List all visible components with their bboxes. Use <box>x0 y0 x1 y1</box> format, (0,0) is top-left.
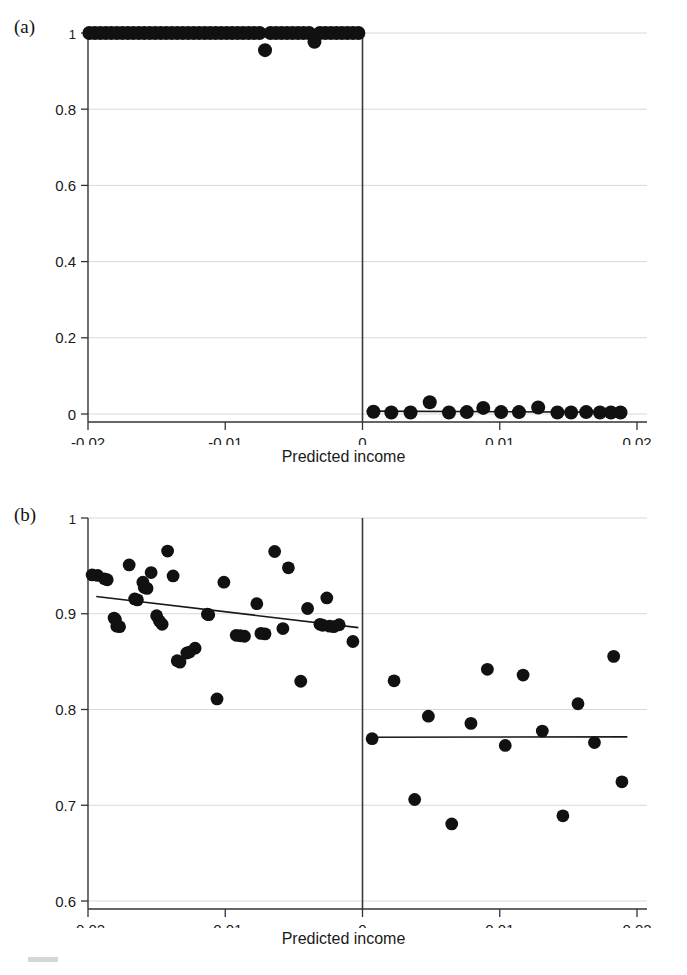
panel-a-xaxis-title: Predicted income <box>0 448 687 466</box>
y-tick-label: 0.9 <box>55 605 76 622</box>
data-point <box>294 675 307 688</box>
data-point <box>536 725 549 738</box>
tick-labels: 00.20.40.60.81-0.02-0.0100.010.02 <box>55 27 651 446</box>
data-point <box>161 545 174 558</box>
data-point <box>276 622 289 635</box>
data-point <box>564 405 578 419</box>
data-point <box>238 630 251 643</box>
x-tick-label: 0.01 <box>485 921 514 928</box>
data-point <box>614 405 628 419</box>
data-point <box>388 674 401 687</box>
x-tick-label: -0.02 <box>71 434 105 445</box>
data-point <box>442 405 456 419</box>
panel-b-plot: 0.60.70.80.91-0.02-0.0100.010.02 <box>0 490 687 928</box>
data-point <box>141 582 154 595</box>
data-point <box>145 566 158 579</box>
data-point <box>384 405 398 419</box>
data-point <box>346 635 359 648</box>
data-point <box>494 405 508 419</box>
data-point <box>167 570 180 583</box>
data-point <box>423 395 437 409</box>
data-point <box>404 405 418 419</box>
data-point <box>131 593 144 606</box>
data-point <box>476 401 490 415</box>
panel-a: (a) 00.20.40.60.81-0.02-0.0100.010.02 Pr… <box>0 0 687 490</box>
data-point <box>250 597 263 610</box>
data-point <box>408 793 421 806</box>
data-points <box>82 26 627 419</box>
figure-container: (a) 00.20.40.60.81-0.02-0.0100.010.02 Pr… <box>0 0 687 975</box>
data-point <box>333 618 346 631</box>
x-tick-label: 0.01 <box>485 434 514 445</box>
y-tick-label: 1 <box>69 27 76 42</box>
data-point <box>351 26 365 40</box>
y-tick-label: 0.7 <box>55 797 76 814</box>
data-point <box>579 405 593 419</box>
data-point <box>512 405 526 419</box>
x-tick-label: 0 <box>358 434 366 445</box>
data-point <box>258 43 272 57</box>
data-point <box>123 559 136 572</box>
data-point <box>445 818 458 831</box>
data-point <box>113 620 126 633</box>
data-points <box>86 545 629 831</box>
data-point <box>189 642 202 655</box>
fit-lines <box>89 33 626 412</box>
panel-a-plot: 00.20.40.60.81-0.02-0.0100.010.02 <box>0 0 687 445</box>
y-tick-label: 0.6 <box>55 893 76 910</box>
data-point <box>499 739 512 752</box>
data-point <box>556 809 569 822</box>
data-point <box>465 717 478 730</box>
data-point <box>550 405 564 419</box>
x-tick-label: 0.02 <box>622 434 651 445</box>
axes <box>81 33 647 430</box>
data-point <box>202 608 215 621</box>
axes <box>81 518 647 917</box>
data-point <box>607 650 620 663</box>
data-point <box>572 697 585 710</box>
data-point <box>481 663 494 676</box>
data-point <box>616 775 629 788</box>
data-point <box>366 732 379 745</box>
tick-labels: 0.60.70.80.91-0.02-0.0100.010.02 <box>55 512 651 929</box>
data-point <box>422 710 435 723</box>
data-point <box>268 545 281 558</box>
data-point <box>301 602 314 615</box>
data-point <box>460 405 474 419</box>
data-point <box>217 576 230 589</box>
y-tick-label: 0.2 <box>55 329 76 346</box>
x-tick-label: -0.01 <box>208 434 242 445</box>
data-point <box>366 405 380 419</box>
x-tick-label: 0.02 <box>622 921 651 928</box>
scan-artifact <box>28 957 58 962</box>
data-point <box>320 592 333 605</box>
y-tick-label: 1 <box>69 512 76 527</box>
y-tick-label: 0.8 <box>55 101 76 118</box>
data-point <box>517 669 530 682</box>
panel-b: (b) 0.60.70.80.91-0.02-0.0100.010.02 Pre… <box>0 490 687 975</box>
y-tick-label: 0.6 <box>55 177 76 194</box>
data-point <box>259 627 272 640</box>
x-tick-label: -0.01 <box>208 921 242 928</box>
y-tick-label: 0.4 <box>55 253 76 270</box>
gridlines <box>88 33 647 414</box>
data-point <box>211 693 224 706</box>
data-point <box>101 573 114 586</box>
data-point <box>588 736 601 749</box>
y-tick-label: 0 <box>68 406 76 423</box>
panel-b-xaxis-title: Predicted income <box>0 930 687 948</box>
y-tick-label: 0.8 <box>55 701 76 718</box>
data-point <box>156 618 169 631</box>
data-point <box>282 561 295 574</box>
x-tick-label: 0 <box>358 921 366 928</box>
x-tick-label: -0.02 <box>71 921 105 928</box>
data-point <box>531 401 545 415</box>
